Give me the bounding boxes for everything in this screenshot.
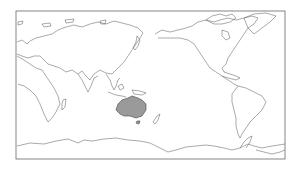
world-map [0, 0, 300, 177]
